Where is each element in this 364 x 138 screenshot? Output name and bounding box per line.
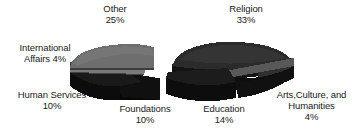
slice-label-arts-line3: 4% xyxy=(259,111,364,122)
slice-label-religion-name: Religion xyxy=(207,3,285,14)
slice-label-arts-culture-humanities: Arts,Culture, and Humanities 4% xyxy=(259,89,364,122)
slice-label-international-affairs-line1: International xyxy=(2,42,88,53)
slice-label-foundations-value: 10% xyxy=(103,114,187,125)
pie-chart-figure: Other 25% Religion 33% International Aff… xyxy=(0,0,364,138)
slice-label-international-affairs: International Affairs 4% xyxy=(2,42,88,64)
slice-label-human-services-name: Human Services xyxy=(0,89,104,100)
slice-label-human-services-value: 10% xyxy=(0,100,104,111)
slice-label-other: Other 25% xyxy=(84,3,146,25)
slice-label-religion-value: 33% xyxy=(207,14,285,25)
slice-label-other-value: 25% xyxy=(84,14,146,25)
slice-label-foundations-name: Foundations xyxy=(103,103,187,114)
slice-label-arts-line2: Humanities xyxy=(259,100,364,111)
slice-label-education-name: Education xyxy=(188,103,260,114)
slice-label-arts-line1: Arts,Culture, and xyxy=(259,89,364,100)
slice-label-religion: Religion 33% xyxy=(207,3,285,25)
slice-label-education: Education 14% xyxy=(188,103,260,125)
slice-label-other-name: Other xyxy=(84,3,146,14)
slice-label-education-value: 14% xyxy=(188,114,260,125)
slice-label-foundations: Foundations 10% xyxy=(103,103,187,125)
slice-label-human-services: Human Services 10% xyxy=(0,89,104,111)
slice-label-international-affairs-line2: Affairs 4% xyxy=(2,53,88,64)
